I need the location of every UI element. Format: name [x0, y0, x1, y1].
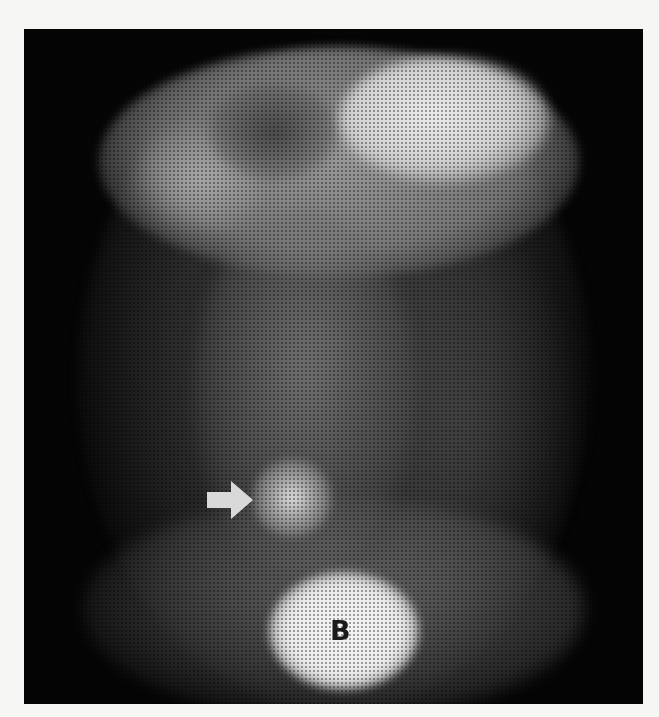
stomach-uptake	[339, 57, 549, 182]
photopenic-area	[209, 84, 339, 179]
scintigraphy-image: B	[24, 29, 643, 704]
focal-uptake	[252, 459, 332, 537]
arrow-right-icon	[207, 481, 253, 519]
bladder-label: B	[330, 617, 351, 644]
